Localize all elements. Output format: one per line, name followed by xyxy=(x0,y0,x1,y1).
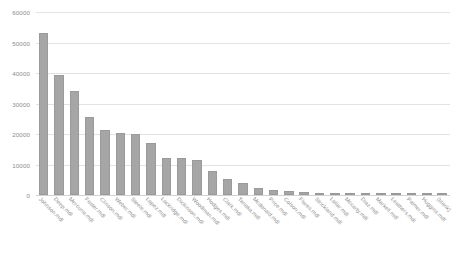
x-tick-slot: Mccarty.mdl xyxy=(343,196,358,256)
bar-slot[interactable] xyxy=(97,12,112,195)
bar[interactable] xyxy=(162,158,172,195)
bar-slot[interactable] xyxy=(266,12,281,195)
x-tick-slot: Lopez.mdl xyxy=(143,196,158,256)
bar-slot[interactable] xyxy=(343,12,358,195)
x-tick-slot: Price.mdl xyxy=(266,196,281,256)
bar-slot[interactable] xyxy=(67,12,82,195)
bar[interactable] xyxy=(376,193,386,195)
bar[interactable] xyxy=(223,179,233,195)
bar-slot[interactable] xyxy=(281,12,296,195)
y-tick-label: 30000 xyxy=(12,100,30,107)
x-tick-slot: Lockridge.mdl xyxy=(159,196,174,256)
bar-slot[interactable] xyxy=(36,12,51,195)
bar-slot[interactable] xyxy=(174,12,189,195)
bar-slot[interactable] xyxy=(389,12,404,195)
bar-slot[interactable] xyxy=(419,12,434,195)
bar[interactable] xyxy=(315,193,325,195)
bar-slot[interactable] xyxy=(128,12,143,195)
y-tick-label: 40000 xyxy=(12,70,30,77)
bar[interactable] xyxy=(299,192,309,195)
bar[interactable] xyxy=(330,193,340,195)
bar[interactable] xyxy=(192,160,202,195)
bar[interactable] xyxy=(208,171,218,195)
bar[interactable] xyxy=(391,193,401,195)
y-tick-label: 10000 xyxy=(12,161,30,168)
bar-slot[interactable] xyxy=(82,12,97,195)
bar[interactable] xyxy=(100,130,110,195)
x-tick-slot: Diaz.mdl xyxy=(358,196,373,256)
x-tick-slot: Leathers.mdl xyxy=(389,196,404,256)
y-tick-label: 20000 xyxy=(12,131,30,138)
x-tick-slot: Clinson.mdl xyxy=(97,196,112,256)
x-tick-slot: Woodman.mdl xyxy=(189,196,204,256)
plot-area xyxy=(36,12,450,195)
bar-slot[interactable] xyxy=(143,12,158,195)
bar-slot[interactable] xyxy=(235,12,250,195)
bar-slot[interactable] xyxy=(312,12,327,195)
bar[interactable] xyxy=(284,191,294,195)
y-tick-label: 50000 xyxy=(12,39,30,46)
bar[interactable] xyxy=(407,193,417,195)
x-tick-slot: Dickinson.mdl xyxy=(174,196,189,256)
bar[interactable] xyxy=(85,117,95,195)
bar-slot[interactable] xyxy=(220,12,235,195)
x-tick-slot: Mercurio.mdl xyxy=(67,196,82,256)
x-tick-slot: Weber.mdl xyxy=(113,196,128,256)
bar-slot[interactable] xyxy=(435,12,450,195)
bar-series xyxy=(36,12,450,195)
bar-slot[interactable] xyxy=(51,12,66,195)
bar[interactable] xyxy=(422,193,432,195)
bar-slot[interactable] xyxy=(159,12,174,195)
bar[interactable] xyxy=(70,91,80,195)
x-tick-slot: Lollar.mdl xyxy=(327,196,342,256)
y-axis-tick-labels: 0100002000030000400005000060000 xyxy=(0,12,34,195)
bar[interactable] xyxy=(54,75,64,195)
bar[interactable] xyxy=(131,134,141,195)
bar[interactable] xyxy=(39,33,49,195)
bar-slot[interactable] xyxy=(327,12,342,195)
x-tick-slot: Foster.mdl xyxy=(82,196,97,256)
x-tick-slot: Mcdonald.mdl xyxy=(251,196,266,256)
x-tick-slot: Huggins.mdl xyxy=(419,196,434,256)
x-tick-slot: Clark.mdl xyxy=(220,196,235,256)
bar-slot[interactable] xyxy=(373,12,388,195)
bar-slot[interactable] xyxy=(113,12,128,195)
bar-slot[interactable] xyxy=(404,12,419,195)
x-tick-slot: Johnson.mdl xyxy=(36,196,51,256)
bar[interactable] xyxy=(361,193,371,195)
bar[interactable] xyxy=(177,158,187,195)
x-tick-slot: Colson.mdl xyxy=(281,196,296,256)
y-tick-label: 60000 xyxy=(12,9,30,16)
bar-slot[interactable] xyxy=(358,12,373,195)
bar[interactable] xyxy=(238,183,248,195)
bar-slot[interactable] xyxy=(205,12,220,195)
x-tick-slot: Deep.mdl xyxy=(51,196,66,256)
x-tick-slot: Palmer.mdl xyxy=(404,196,419,256)
x-tick-slot: (blank) xyxy=(435,196,450,256)
y-tick-label: 0 xyxy=(26,192,30,199)
bar-slot[interactable] xyxy=(189,12,204,195)
x-tick-slot: Markell.mdl xyxy=(373,196,388,256)
x-tick-slot: Tanaka.mdl xyxy=(235,196,250,256)
bar[interactable] xyxy=(146,143,156,195)
x-tick-slot: Flores.mdl xyxy=(297,196,312,256)
bar[interactable] xyxy=(116,133,126,195)
bar-slot[interactable] xyxy=(251,12,266,195)
bar-chart: 0100002000030000400005000060000 Johnson.… xyxy=(0,0,460,258)
x-tick-label: (blank) xyxy=(436,196,453,213)
bar[interactable] xyxy=(437,193,447,195)
bar[interactable] xyxy=(254,188,264,195)
x-tick-slot: Hodges.mdl xyxy=(205,196,220,256)
x-tick-slot: Steele.mdl xyxy=(128,196,143,256)
bar[interactable] xyxy=(269,190,279,195)
bar-slot[interactable] xyxy=(297,12,312,195)
x-tick-slot: Strickland.mdl xyxy=(312,196,327,256)
bar[interactable] xyxy=(345,193,355,195)
x-axis-tick-labels: Johnson.mdlDeep.mdlMercurio.mdlFoster.md… xyxy=(36,196,450,256)
